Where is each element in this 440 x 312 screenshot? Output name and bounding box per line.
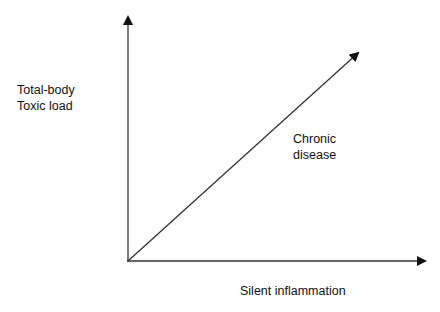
- diagram-canvas: [0, 0, 440, 312]
- y-axis-label-line1: Total-body: [17, 82, 75, 98]
- y-axis-label-line2: Toxic load: [17, 98, 75, 114]
- x-axis-label: Silent inflammation: [240, 283, 346, 299]
- diagonal-label-line2: disease: [293, 147, 336, 163]
- diagonal-label-line1: Chronic: [293, 131, 336, 147]
- diagonal-label: Chronic disease: [293, 131, 336, 163]
- y-axis-label: Total-body Toxic load: [17, 82, 75, 114]
